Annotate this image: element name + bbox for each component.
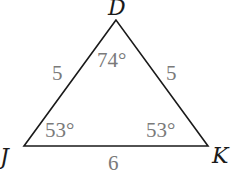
triangle-diagram: D J K 5 5 6 74° 53° 53° bbox=[0, 0, 232, 170]
angle-measure-d: 74° bbox=[97, 48, 126, 72]
vertex-label-d: D bbox=[107, 0, 126, 20]
vertex-label-j: J bbox=[0, 144, 10, 169]
side-length-jk: 6 bbox=[108, 151, 119, 170]
vertex-label-k: K bbox=[211, 143, 230, 168]
side-length-dj: 5 bbox=[52, 61, 63, 85]
angle-measure-j: 53° bbox=[45, 118, 74, 142]
angle-measure-k: 53° bbox=[146, 118, 175, 142]
side-length-dk: 5 bbox=[166, 61, 177, 85]
